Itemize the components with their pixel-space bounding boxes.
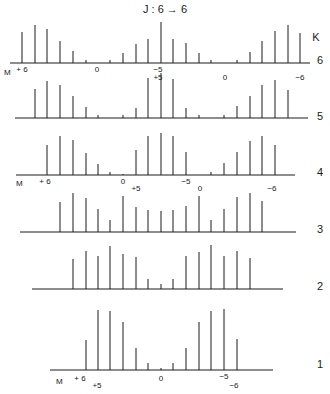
m-tick-label: −5 <box>219 372 229 381</box>
stick-spectrum-diagram: J : 6 → 6 K 6+ 60−5+50−6M54+ 60−5+50−6M3… <box>0 0 330 394</box>
k-axis-label: K <box>312 31 320 43</box>
m-tick-label: 0 <box>95 65 100 74</box>
m-tick-label: 0 <box>198 184 203 193</box>
m-axis-label: M <box>4 68 11 77</box>
m-tick-label: +5 <box>92 381 102 390</box>
m-tick-label: −6 <box>295 73 305 82</box>
spectrum-row-k5: 5 <box>15 73 323 122</box>
k-value-label: 2 <box>317 280 323 292</box>
m-tick-label: + 6 <box>39 177 51 186</box>
spectrum-row-k6: 6+ 60−5+50−6M <box>4 22 323 82</box>
k-value-label: 3 <box>317 223 323 235</box>
k-value-label: 4 <box>317 166 323 178</box>
diagram-title: J : 6 → 6 <box>143 3 187 15</box>
m-axis-label: M <box>16 179 23 188</box>
m-tick-label: −6 <box>267 184 277 193</box>
spectrum-rows: 6+ 60−5+50−6M54+ 60−5+50−6M321+ 60−5+5−6… <box>4 22 323 390</box>
m-tick-label: 0 <box>223 73 228 82</box>
k-value-label: 5 <box>317 110 323 122</box>
spectrum-row-k2: 2 <box>32 245 323 292</box>
spectrum-row-k4: 4+ 60−5+50−6M <box>16 133 323 193</box>
m-tick-label: + 6 <box>16 65 28 74</box>
k-value-label: 6 <box>317 54 323 66</box>
k-value-label: 1 <box>317 358 323 370</box>
m-tick-label: 0 <box>121 177 126 186</box>
m-tick-label: −6 <box>229 381 239 390</box>
m-tick-label: +5 <box>131 184 141 193</box>
spectrum-row-k3: 3 <box>20 193 323 235</box>
m-tick-label: +5 <box>153 73 163 82</box>
m-tick-label: 0 <box>159 374 164 383</box>
spectrum-row-k1: 1+ 60−5+5−6M <box>50 309 323 390</box>
m-axis-label: M <box>56 377 63 386</box>
m-tick-label: + 6 <box>74 374 86 383</box>
m-tick-label: −5 <box>181 177 191 186</box>
